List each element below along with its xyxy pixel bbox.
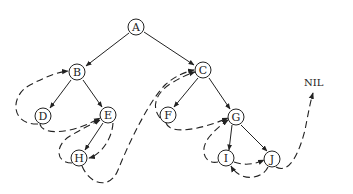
svg-text:B: B xyxy=(73,66,81,79)
nil-label: NIL xyxy=(304,77,324,88)
svg-text:G: G xyxy=(232,111,241,124)
svg-text:E: E xyxy=(104,109,112,122)
node-f: F xyxy=(160,107,176,123)
svg-text:J: J xyxy=(269,153,274,166)
node-b: B xyxy=(69,64,85,80)
node-d: D xyxy=(35,108,51,124)
svg-text:F: F xyxy=(164,109,172,122)
threaded-tree-diagram: A B C D E F G H I J NIL xyxy=(0,0,353,194)
node-h: H xyxy=(71,150,87,166)
node-i: I xyxy=(218,150,234,166)
node-g: G xyxy=(228,109,244,125)
node-j: J xyxy=(264,151,280,167)
node-c: C xyxy=(195,62,211,78)
svg-text:H: H xyxy=(74,152,84,165)
svg-text:D: D xyxy=(39,110,48,123)
svg-text:C: C xyxy=(199,64,207,77)
svg-text:A: A xyxy=(131,21,141,34)
tree-edges xyxy=(50,32,267,151)
node-a: A xyxy=(128,19,144,35)
node-e: E xyxy=(100,107,116,123)
svg-text:I: I xyxy=(224,152,228,165)
